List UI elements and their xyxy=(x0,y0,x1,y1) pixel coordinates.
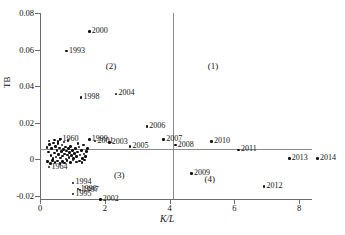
x-tick-label: 0 xyxy=(30,203,50,213)
scatter-chart: 0.080.060.040.020-0.02 02468 TB K/L 2000… xyxy=(0,0,345,235)
data-point xyxy=(83,159,86,162)
data-point xyxy=(65,150,68,153)
data-point xyxy=(54,145,57,148)
data-point xyxy=(65,50,68,53)
point-label: 2011 xyxy=(241,144,257,153)
vertical-divider-line xyxy=(173,13,174,199)
data-point xyxy=(85,150,88,153)
point-label: 2010 xyxy=(214,136,230,145)
data-point xyxy=(64,146,67,149)
data-point xyxy=(288,157,291,160)
data-point xyxy=(210,140,213,143)
data-point xyxy=(237,149,240,152)
data-point xyxy=(75,161,78,164)
data-point xyxy=(80,149,83,152)
quadrant-label: (1) xyxy=(208,61,219,71)
quadrant-label: (2) xyxy=(106,61,117,71)
data-point xyxy=(47,151,50,154)
data-point xyxy=(81,161,84,164)
x-tick-label: 2 xyxy=(95,203,115,213)
y-tick-mark xyxy=(35,13,40,14)
data-point xyxy=(56,149,59,152)
x-axis-title: K/L xyxy=(160,214,174,224)
data-point xyxy=(76,151,79,154)
point-label: 2004 xyxy=(119,88,135,97)
data-point xyxy=(61,144,64,147)
data-point xyxy=(146,125,149,128)
y-tick-mark xyxy=(35,159,40,160)
data-point xyxy=(48,140,51,143)
data-point xyxy=(316,157,319,160)
x-tick-label: 6 xyxy=(224,203,244,213)
data-point xyxy=(72,193,75,196)
point-label: 1960 xyxy=(63,134,79,143)
data-point xyxy=(78,146,81,149)
data-point xyxy=(52,142,55,145)
point-label: 2000 xyxy=(92,26,108,35)
data-point xyxy=(50,147,53,150)
point-label: 2006 xyxy=(149,121,165,130)
data-point xyxy=(75,155,78,158)
point-label: 1995 xyxy=(76,189,92,198)
quadrant-label: (3) xyxy=(114,170,125,180)
data-point xyxy=(80,96,83,99)
data-point xyxy=(82,144,85,147)
data-point xyxy=(190,172,193,175)
data-point xyxy=(71,149,74,152)
data-point xyxy=(74,147,77,150)
data-point xyxy=(88,30,91,33)
y-tick-label: 0.06 xyxy=(0,45,34,55)
plot-area: 0.080.060.040.020-0.02 02468 TB K/L 2000… xyxy=(0,0,345,235)
y-tick-mark xyxy=(35,196,40,197)
data-point xyxy=(59,157,62,160)
data-point xyxy=(129,145,132,148)
data-point xyxy=(55,156,58,159)
data-point xyxy=(86,147,89,150)
data-point xyxy=(263,185,266,188)
y-tick-label: 0 xyxy=(0,154,34,164)
x-tick-label: 8 xyxy=(289,203,309,213)
data-point xyxy=(57,153,60,156)
data-point xyxy=(63,153,66,156)
point-label: 2003 xyxy=(112,137,128,146)
data-point xyxy=(62,148,65,151)
quadrant-label: (4) xyxy=(205,174,216,184)
data-point xyxy=(162,138,165,141)
data-point xyxy=(88,138,91,141)
x-axis-line xyxy=(40,199,312,200)
x-tick-label: 4 xyxy=(160,203,180,213)
data-point xyxy=(72,182,75,185)
data-point xyxy=(48,166,51,169)
y-tick-label: -0.02 xyxy=(0,191,34,201)
data-point xyxy=(174,144,177,147)
y-axis-title: TB xyxy=(2,76,12,88)
data-point xyxy=(53,152,56,155)
point-label: 2005 xyxy=(133,141,149,150)
data-point xyxy=(69,145,72,148)
data-point xyxy=(48,143,51,146)
point-label: 1998 xyxy=(84,92,100,101)
data-point xyxy=(69,161,72,164)
data-point xyxy=(115,93,118,96)
y-axis-line xyxy=(40,13,41,200)
data-point xyxy=(84,155,87,158)
data-point xyxy=(61,155,64,158)
data-point xyxy=(79,154,82,157)
y-tick-mark xyxy=(35,86,40,87)
point-label: 1993 xyxy=(69,46,85,55)
point-label: 2008 xyxy=(178,140,194,149)
y-tick-label: 0.08 xyxy=(0,8,34,18)
y-tick-label: 0.02 xyxy=(0,118,34,128)
data-point xyxy=(108,141,111,144)
point-label: 1964 xyxy=(52,162,68,171)
data-point xyxy=(99,198,102,201)
y-tick-mark xyxy=(35,123,40,124)
point-label: 2014 xyxy=(320,153,336,162)
point-label: 2012 xyxy=(267,181,283,190)
point-label: 2013 xyxy=(292,153,308,162)
data-point xyxy=(72,159,75,162)
point-label: 2002 xyxy=(103,194,119,203)
y-tick-mark xyxy=(35,50,40,51)
data-point xyxy=(59,138,62,141)
